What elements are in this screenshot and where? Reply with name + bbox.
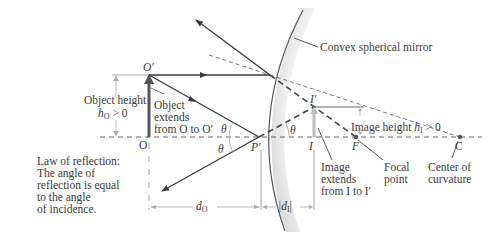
law-of-reflection-3: reflection is equal bbox=[37, 179, 119, 192]
object-extends-1: Object bbox=[154, 99, 185, 112]
image-extends-1: Image bbox=[321, 161, 350, 174]
object-distance-label: dO bbox=[196, 200, 208, 217]
object-height-label: Object height bbox=[84, 94, 146, 107]
theta-reflected: θ bbox=[218, 143, 224, 156]
object-extends-3: from O to O′ bbox=[154, 123, 213, 136]
image-extends-3: from I to I′ bbox=[321, 185, 371, 198]
object-height-condition: hO > 0 bbox=[98, 107, 128, 124]
focal-point-label-2: point bbox=[384, 173, 408, 186]
law-of-reflection-2: The angle of bbox=[37, 167, 95, 180]
center-dot bbox=[458, 135, 463, 140]
mirror-shading bbox=[271, 8, 315, 232]
ray-reflected-up bbox=[196, 20, 270, 75]
theta-incident: θ bbox=[221, 123, 227, 136]
center-label-2: curvature bbox=[428, 173, 471, 186]
object-top-label: O′ bbox=[143, 61, 154, 74]
focal-point-symbol: F bbox=[352, 140, 359, 153]
object-base-label: O bbox=[139, 139, 147, 152]
law-of-reflection-4: to the angle bbox=[37, 191, 91, 204]
focal-point-label-1: Focal bbox=[384, 161, 410, 174]
diagram-root: Convex spherical mirror O′ Object height… bbox=[0, 0, 493, 243]
reflection-point-label: P′ bbox=[251, 141, 261, 154]
image-height-label: Image height hI > 0 bbox=[351, 121, 441, 138]
law-of-reflection-1: Law of reflection: bbox=[37, 155, 120, 168]
ray-reflected-down bbox=[162, 137, 259, 191]
center-symbol: C bbox=[455, 140, 463, 153]
theta-image: θ bbox=[290, 124, 296, 137]
image-top-label: I′ bbox=[310, 93, 316, 106]
object-extends-2: extends bbox=[154, 111, 189, 124]
law-of-reflection-5: of incidence. bbox=[37, 203, 96, 216]
image-extends-2: extends bbox=[321, 173, 356, 186]
mirror-label: Convex spherical mirror bbox=[320, 41, 432, 54]
image-distance-label: |dI| bbox=[278, 200, 292, 217]
image-base-label: I bbox=[309, 140, 313, 153]
center-label-1: Center of bbox=[428, 161, 471, 174]
